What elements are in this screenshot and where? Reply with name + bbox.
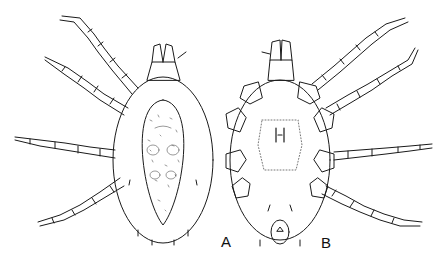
panel-a-dorsal bbox=[15, 16, 213, 245]
shield-stipple bbox=[147, 115, 179, 211]
body-outline-a bbox=[113, 77, 213, 243]
leg-2-b bbox=[326, 48, 418, 115]
coxal-plates bbox=[226, 82, 334, 198]
figure: A B bbox=[0, 0, 447, 270]
panel-label-b: B bbox=[321, 234, 331, 251]
gnathosoma-b bbox=[268, 60, 294, 80]
leg-4-a bbox=[38, 178, 124, 226]
panel-label-a: A bbox=[221, 233, 231, 250]
leg-4-b bbox=[322, 186, 422, 226]
leg-3-b bbox=[334, 144, 432, 160]
panel-b-ventral bbox=[226, 18, 432, 246]
leg-1-b bbox=[312, 18, 408, 90]
leg-1-a bbox=[60, 16, 138, 94]
sternal-area bbox=[258, 120, 302, 170]
body-outline-b bbox=[230, 80, 330, 240]
leg-2-a bbox=[45, 57, 128, 115]
dorsal-shield bbox=[142, 100, 184, 225]
mite-drawing bbox=[0, 0, 447, 270]
